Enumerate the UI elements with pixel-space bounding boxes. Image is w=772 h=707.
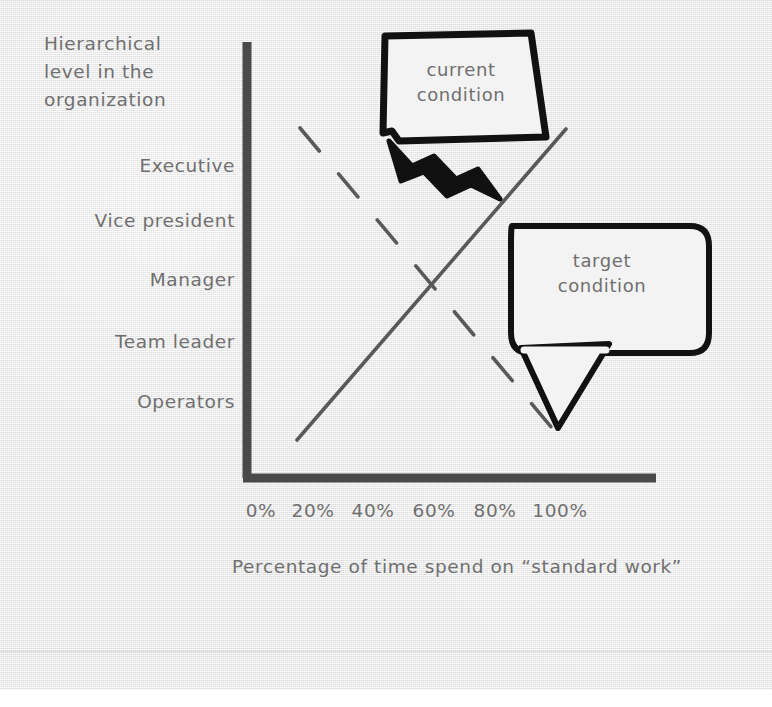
x-tick-label-group: 0% 20% 40% 60% 80% 100% (0, 500, 700, 532)
x-tick-label-40: 40% (352, 500, 395, 521)
target-condition-label: target condition (527, 248, 677, 298)
target-condition-tail (521, 344, 609, 428)
x-axis-title: Percentage of time spend on “standard wo… (232, 556, 682, 577)
x-tick-label-60: 60% (413, 500, 456, 521)
y-tick-label-executive: Executive (20, 155, 235, 176)
current-condition-label: current condition (396, 57, 526, 107)
x-tick-label-100: 100% (532, 500, 587, 521)
x-tick-label-20: 20% (292, 500, 335, 521)
y-tick-label-operators: Operators (20, 391, 235, 412)
y-tick-label-group: Executive Vice president Manager Team le… (10, 0, 235, 500)
figure-canvas: Hierarchical level in the organization E… (0, 0, 772, 707)
y-tick-label-vice-president: Vice president (20, 210, 235, 231)
y-tick-label-team-leader: Team leader (20, 331, 235, 352)
y-tick-label-manager: Manager (20, 269, 235, 290)
current-condition-tail (389, 141, 500, 199)
x-tick-label-80: 80% (474, 500, 517, 521)
x-tick-label-0: 0% (246, 500, 277, 521)
